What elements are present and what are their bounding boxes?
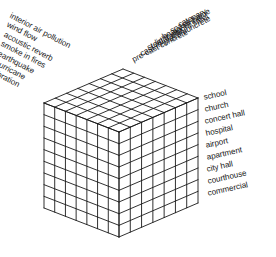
- isometric-cube-diagram: interior air pollutionwind flowacoustic …: [0, 0, 276, 257]
- cube-graphic: [0, 0, 276, 257]
- cube-geometry: [44, 69, 198, 237]
